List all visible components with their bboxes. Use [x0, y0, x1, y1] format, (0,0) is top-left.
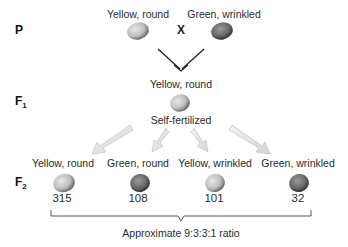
generation-label-p: P: [15, 23, 23, 37]
cross-symbol: X: [177, 23, 185, 37]
f2-label-yellow-round: Yellow, round: [32, 157, 94, 169]
f2-count-green-wrinkled: 32: [292, 192, 305, 204]
f1-label: Yellow, round: [150, 78, 212, 90]
seed-green-wrinkled-parent: [209, 20, 235, 42]
seed-f1: [168, 92, 192, 114]
self-fertilization-arrows: [92, 125, 270, 154]
f2-count-yellow-wrinkled: 101: [204, 192, 223, 204]
self-fertilized-label: Self-fertilized: [151, 114, 212, 126]
ratio-label: Approximate 9:3:3:1 ratio: [122, 227, 239, 239]
generation-label-f1: F1: [15, 94, 27, 110]
f2-count-green-round: 108: [128, 192, 147, 204]
f2-label-yellow-wrinkled: Yellow, wrinkled: [178, 157, 252, 169]
seed-f2-green-wrinkled: [287, 172, 311, 195]
f2-label-green-wrinkled: Green, wrinkled: [261, 157, 335, 169]
f2-count-yellow-round: 315: [52, 192, 71, 204]
generation-label-f2: F2: [15, 175, 27, 191]
seed-f2-green-round: [128, 172, 152, 195]
seed-f2-yellow-wrinkled: [203, 172, 227, 195]
seed-yellow-round-parent: [125, 20, 151, 42]
f2-label-green-round: Green, round: [107, 157, 169, 169]
parent-label-yellow-round: Yellow, round: [107, 8, 169, 20]
cross-arrow: [158, 49, 204, 71]
parent-label-green-wrinkled: Green, wrinkled: [187, 8, 261, 20]
ratio-bracket: [51, 210, 311, 221]
